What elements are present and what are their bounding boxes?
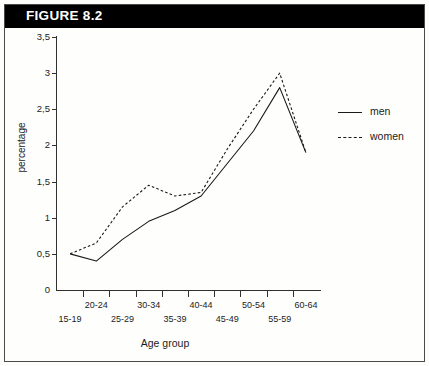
plot-svg (57, 37, 319, 290)
legend-label-men: men (370, 105, 390, 117)
x-axis-tick-mark (240, 291, 241, 297)
series-line-men (70, 88, 306, 261)
y-axis-tick-labels: 00,511,522,533,5 (12, 0, 50, 300)
series-line-women (70, 73, 306, 254)
plot-area (57, 37, 319, 290)
x-axis-tick-mark (136, 291, 137, 297)
y-axis-tick-label: 3,5 (37, 32, 50, 42)
x-axis-tick-mark (109, 291, 110, 297)
x-axis-tick-label: 20-24 (76, 301, 116, 310)
legend-item-men: men (338, 104, 424, 129)
x-axis-tick-label: 30-34 (129, 301, 169, 310)
x-axis-tick-label: 55-59 (260, 315, 300, 324)
legend-label-women: women (370, 130, 404, 142)
x-axis-tick-label: 15-19 (50, 315, 90, 324)
x-axis-tick-label: 35-39 (155, 315, 195, 324)
x-axis-tick-label: 45-49 (207, 315, 247, 324)
x-axis-tick-mark (162, 291, 163, 297)
y-axis-tick-label: 0 (45, 285, 50, 295)
x-axis-tick-label: 50-54 (234, 301, 274, 310)
legend-swatch-women-dotted-line (338, 137, 362, 138)
x-axis-tick-label: 25-29 (103, 315, 143, 324)
y-axis-tick-label: 2 (45, 140, 50, 150)
chart-legend: men women (338, 104, 424, 154)
y-axis-tick-label: 1 (45, 213, 50, 223)
x-axis-title: Age group (0, 337, 330, 349)
x-axis-tick-label: 40-44 (181, 301, 221, 310)
x-axis-tick-mark (267, 291, 268, 297)
legend-swatch-men-solid-line (338, 112, 362, 113)
x-axis-tick-mark (293, 291, 294, 297)
x-axis-tick-mark (83, 291, 84, 297)
figure-page: FIGURE 8.2 percentage 00,511,522,533,5 1… (0, 0, 429, 366)
y-axis-tick-label: 1,5 (37, 177, 50, 187)
x-axis-tick-label: 60-64 (286, 301, 326, 310)
x-axis-tick-mark (188, 291, 189, 297)
x-axis-tick-mark (214, 291, 215, 297)
y-axis-tick-label: 3 (45, 68, 50, 78)
legend-item-women: women (338, 129, 424, 154)
y-axis-tick-label: 2,5 (37, 104, 50, 114)
y-axis-tick-label: 0,5 (37, 249, 50, 259)
